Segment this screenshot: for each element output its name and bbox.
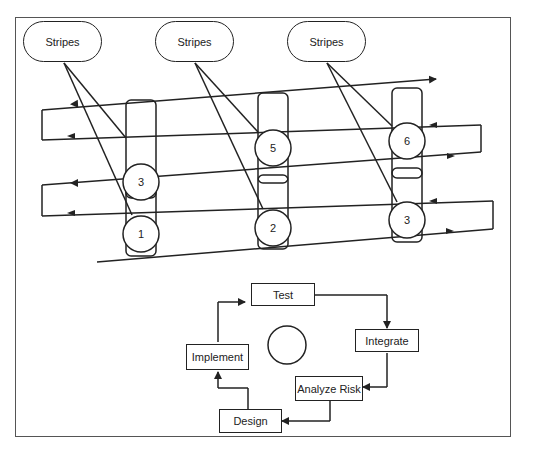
node-bottom-3: 3 (404, 214, 410, 226)
stripes-label-3: Stripes (287, 21, 366, 62)
node-top-1: 3 (138, 176, 144, 188)
stripes-label-2: Stripes (155, 21, 234, 62)
step-design: Design (219, 409, 282, 433)
step-integrate: Integrate (355, 329, 419, 352)
stripes-label-1: Stripes (23, 21, 102, 62)
node-bottom-2: 2 (270, 222, 276, 234)
step-test: Test (251, 283, 315, 306)
node-top-3: 6 (404, 135, 410, 147)
node-top-2: 5 (270, 142, 276, 154)
diagram-lines (0, 0, 534, 449)
step-analyze-risk: Analyze Risk (295, 376, 363, 401)
node-bottom-1: 1 (138, 228, 144, 240)
step-implement: Implement (186, 344, 249, 370)
